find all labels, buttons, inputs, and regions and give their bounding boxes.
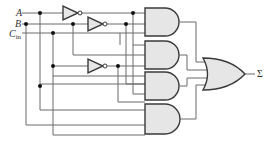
- not-gate-b: [88, 17, 107, 31]
- or-gate: [203, 58, 245, 90]
- not-gate-cin: [88, 59, 107, 73]
- input-label-b: B: [15, 18, 21, 29]
- and-gate-4: [145, 104, 180, 134]
- and-gate-2: [145, 41, 179, 69]
- full-adder-sum-diagram: A B Cin: [0, 0, 268, 159]
- and-gate-1: [145, 8, 179, 36]
- vertical-drops: [26, 13, 145, 135]
- and-gate-3: [145, 72, 179, 100]
- inverted-wires: [118, 13, 145, 102]
- and-to-or-wires: [179, 22, 209, 119]
- output-label-sum: Σ: [257, 68, 263, 79]
- not-gate-a: [63, 6, 82, 20]
- input-label-a: A: [15, 7, 23, 18]
- input-label-cin: Cin: [9, 28, 22, 41]
